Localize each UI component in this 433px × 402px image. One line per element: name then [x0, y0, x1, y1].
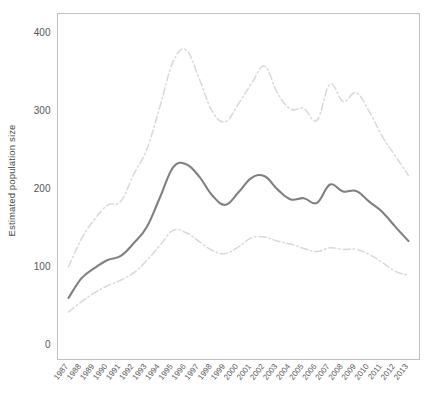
y-tick-label: 400 — [34, 27, 51, 38]
y-tick-label: 200 — [34, 183, 51, 194]
chart-plot-area: 0100200300400 19871988198919901991199219… — [0, 0, 433, 402]
y-tick-label: 0 — [45, 339, 51, 350]
chart-figure: Estimated population size 0100200300400 … — [0, 0, 433, 402]
y-tick-label: 100 — [34, 261, 51, 272]
plot-frame — [58, 14, 420, 360]
y-tick-label: 300 — [34, 105, 51, 116]
data-series-group — [69, 49, 409, 312]
data-series-line — [69, 49, 409, 267]
data-series-line — [69, 163, 409, 298]
x-tick-label: 2013 — [392, 362, 410, 382]
x-tick-label-group: 1987198819891990199119921993199419951996… — [52, 362, 410, 382]
data-series-line — [69, 229, 409, 312]
y-tick-label-group: 0100200300400 — [34, 27, 51, 350]
